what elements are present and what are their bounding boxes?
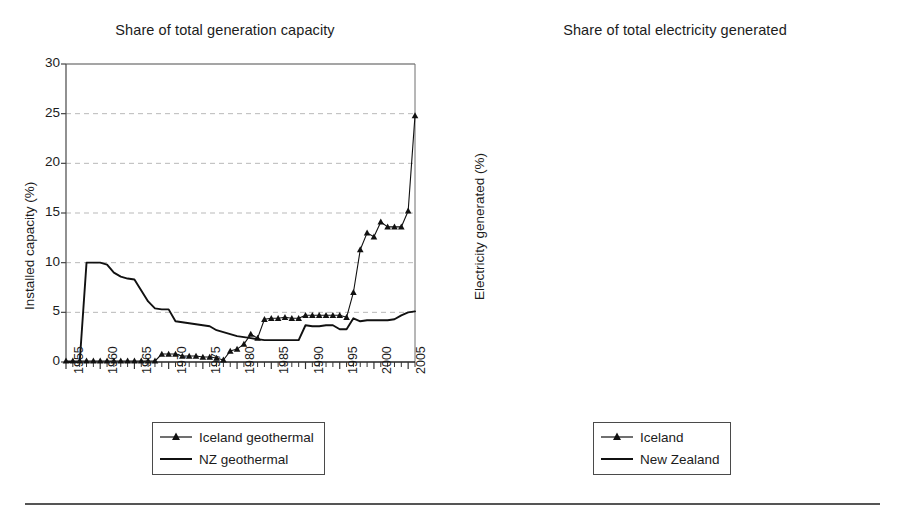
- legend-label-iceland: Iceland: [634, 430, 684, 445]
- legend-label-new-zealand: New Zealand: [634, 452, 720, 467]
- plain-line-icon: [600, 452, 634, 466]
- left-y-tick-label: 10: [32, 254, 60, 269]
- figure-two-panel-chart: Share of total generation capacity Insta…: [0, 0, 900, 517]
- left-x-tick-label: 1960: [106, 346, 120, 374]
- right-legend: Iceland New Zealand: [593, 422, 731, 475]
- left-y-tick-label: 0: [32, 353, 60, 368]
- left-y-tick-label: 25: [32, 105, 60, 120]
- legend-item-iceland-geothermal[interactable]: Iceland geothermal: [159, 426, 314, 448]
- legend-item-iceland[interactable]: Iceland: [600, 426, 720, 448]
- legend-item-nz-geothermal[interactable]: NZ geothermal: [159, 448, 314, 470]
- left-x-tick-label: 2000: [380, 346, 394, 374]
- triangle-marker-line-icon: [159, 430, 193, 444]
- legend-label-nz-geothermal: NZ geothermal: [193, 452, 288, 467]
- right-y-axis-label: Electricity generated (%): [472, 153, 487, 300]
- left-y-tick-label: 20: [32, 154, 60, 169]
- legend-label-iceland-geothermal: Iceland geothermal: [193, 430, 314, 445]
- left-x-tick-label: 1970: [175, 346, 189, 374]
- left-y-tick-label: 30: [32, 55, 60, 70]
- left-x-tick-label: 1995: [346, 346, 360, 374]
- footer-divider-rule: [25, 503, 880, 505]
- triangle-marker-line-icon: [600, 430, 634, 444]
- legend-item-new-zealand[interactable]: New Zealand: [600, 448, 720, 470]
- panel-generation-capacity: Share of total generation capacity Insta…: [0, 0, 450, 500]
- left-x-tick-label: 2005: [414, 346, 428, 374]
- left-x-tick-label: 1980: [243, 346, 257, 374]
- left-x-tick-label: 1955: [72, 346, 86, 374]
- left-x-tick-label: 1990: [312, 346, 326, 374]
- left-y-tick-label: 15: [32, 204, 60, 219]
- left-x-tick-label: 1965: [140, 346, 154, 374]
- left-x-tick-label: 1975: [209, 346, 223, 374]
- left-legend: Iceland geothermal NZ geothermal: [152, 422, 325, 475]
- left-x-tick-label: 1985: [277, 346, 291, 374]
- left-y-tick-label: 5: [32, 303, 60, 318]
- plain-line-icon: [159, 452, 193, 466]
